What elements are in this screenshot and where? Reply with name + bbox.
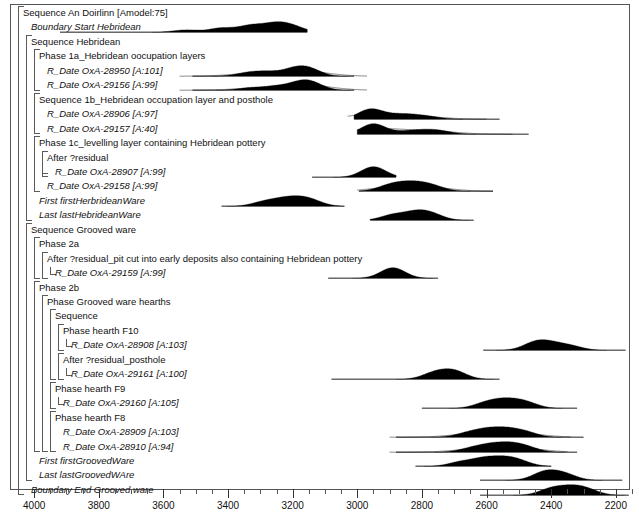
model-row-label: Phase hearth F8 bbox=[55, 410, 125, 425]
axis-minor-tick bbox=[406, 489, 407, 494]
axis-major-tick bbox=[422, 489, 423, 498]
group-bracket bbox=[42, 295, 48, 452]
model-row-label: Sequence Grooved ware bbox=[31, 222, 136, 237]
model-row-label: R_Date OxA-28909 [A:103] bbox=[63, 424, 179, 439]
axis-tick-label: 3800 bbox=[88, 500, 110, 511]
group-bracket bbox=[26, 35, 32, 221]
model-row-label: R_Date OxA-29159 [A:99] bbox=[55, 265, 165, 280]
axis-tick-label: 3400 bbox=[217, 500, 239, 511]
model-row-label: Phase hearth F9 bbox=[55, 381, 125, 396]
axis-minor-tick bbox=[454, 489, 455, 494]
model-row-label: R_Date OxA-28908 [A:103] bbox=[71, 337, 187, 352]
model-row-label: R_Date OxA-28907 [A:99] bbox=[55, 164, 165, 179]
axis-tick-label: 2600 bbox=[475, 500, 497, 511]
model-row-label: After ?residual_posthole bbox=[63, 352, 165, 367]
model-row-label: Sequence Hebridean bbox=[31, 34, 120, 49]
model-row-label: R_Date OxA-28910 [A:94] bbox=[63, 439, 173, 454]
axis-major-tick bbox=[616, 489, 617, 498]
date-axis: 4000380036003400320030002800260024002200 bbox=[10, 489, 630, 521]
axis-minor-tick bbox=[600, 489, 601, 494]
oxcal-plot-stage: Sequence An Doirlinn [Amodel:75]Boundary… bbox=[0, 0, 639, 521]
axis-minor-tick bbox=[632, 489, 633, 494]
model-row-label: R_Date OxA-29160 [A:105] bbox=[63, 395, 179, 410]
axis-minor-tick bbox=[535, 489, 536, 494]
axis-minor-tick bbox=[83, 489, 84, 494]
axis-minor-tick bbox=[212, 489, 213, 494]
axis-minor-tick bbox=[66, 489, 67, 494]
model-row-label: First firstGroovedWare bbox=[39, 453, 134, 468]
group-bracket bbox=[34, 281, 40, 452]
axis-tick-label: 4000 bbox=[23, 500, 45, 511]
axis-tick-label: 2800 bbox=[411, 500, 433, 511]
axis-major-tick bbox=[99, 489, 100, 498]
group-bracket bbox=[26, 223, 32, 481]
model-row-label: R_Date OxA-29158 [A:99] bbox=[47, 178, 157, 193]
model-row-label: After ?residual bbox=[47, 150, 108, 165]
child-elbow bbox=[42, 166, 48, 174]
axis-major-tick bbox=[293, 489, 294, 498]
axis-minor-tick bbox=[50, 489, 51, 494]
axis-major-tick bbox=[163, 489, 164, 498]
axis-tick-label: 3000 bbox=[346, 500, 368, 511]
axis-minor-tick bbox=[115, 489, 116, 494]
axis-major-tick bbox=[228, 489, 229, 498]
axis-minor-tick bbox=[244, 489, 245, 494]
axis-minor-tick bbox=[503, 489, 504, 494]
axis-tick-label: 2200 bbox=[605, 500, 627, 511]
model-row-label: After ?residual_pit cut into early depos… bbox=[47, 251, 362, 266]
model-row-label: Sequence 1b_Hebridean occupation layer a… bbox=[39, 92, 273, 107]
model-row-label: Phase 1c_levelling layer containing Hebr… bbox=[39, 135, 266, 150]
axis-minor-tick bbox=[131, 489, 132, 494]
model-row-label: Sequence bbox=[55, 308, 98, 323]
axis-minor-tick bbox=[567, 489, 568, 494]
model-row-label: R_Date OxA-28950 [A:101] bbox=[47, 63, 163, 78]
axis-minor-tick bbox=[373, 489, 374, 494]
axis-minor-tick bbox=[470, 489, 471, 494]
axis-major-tick bbox=[487, 489, 488, 498]
group-bracket bbox=[18, 6, 24, 495]
axis-minor-tick bbox=[325, 489, 326, 494]
axis-minor-tick bbox=[277, 489, 278, 494]
axis-major-tick bbox=[357, 489, 358, 498]
axis-minor-tick bbox=[438, 489, 439, 494]
axis-major-tick bbox=[34, 489, 35, 498]
model-row-label: Phase 2a bbox=[39, 236, 79, 251]
model-row-label: Boundary Start Hebridean bbox=[31, 19, 141, 34]
axis-minor-tick bbox=[196, 489, 197, 494]
axis-minor-tick bbox=[584, 489, 585, 494]
model-row-label: First firstHerbrideanWare bbox=[39, 193, 145, 208]
axis-tick-label: 2400 bbox=[540, 500, 562, 511]
axis-minor-tick bbox=[341, 489, 342, 494]
model-row-label: Last lastGroovedWAre bbox=[39, 467, 134, 482]
model-row-label: Phase hearth F10 bbox=[63, 323, 139, 338]
axis-major-tick bbox=[551, 489, 552, 498]
model-row-label: Phase 2b bbox=[39, 280, 79, 295]
axis-minor-tick bbox=[390, 489, 391, 494]
model-row-label: Phase 1a_Hebridean oocupation layers bbox=[39, 48, 205, 63]
axis-minor-tick bbox=[260, 489, 261, 494]
model-row-label: R_Date OxA-29157 [A:40] bbox=[47, 121, 157, 136]
model-row-label: Phase Grooved ware hearths bbox=[47, 294, 171, 309]
axis-tick-label: 3200 bbox=[282, 500, 304, 511]
model-row-label: R_Date OxA-29156 [A:99] bbox=[47, 77, 157, 92]
axis-tick-label: 3600 bbox=[152, 500, 174, 511]
axis-minor-tick bbox=[180, 489, 181, 494]
axis-minor-tick bbox=[309, 489, 310, 494]
model-row-label: R_Date OxA-29161 [A:100] bbox=[71, 366, 187, 381]
axis-minor-tick bbox=[519, 489, 520, 494]
model-row-label: Sequence An Doirlinn [Amodel:75] bbox=[23, 5, 168, 20]
model-row-label: Last lastHebrideanWare bbox=[39, 207, 141, 222]
axis-minor-tick bbox=[147, 489, 148, 494]
model-row-label: R_Date OxA-28906 [A:97] bbox=[47, 106, 157, 121]
